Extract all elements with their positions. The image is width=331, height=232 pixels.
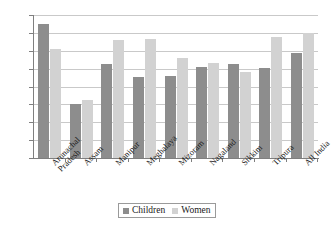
- bar-group: [34, 15, 66, 158]
- y-axis-tick-mark: [29, 69, 33, 70]
- bar-children: [259, 68, 270, 158]
- x-axis-category-labels: Arunachal PradeshAssamManipurMeghalayaMi…: [34, 161, 318, 207]
- legend-item: Children: [123, 206, 165, 216]
- bar-women: [145, 39, 156, 158]
- y-axis-tick-mark: [29, 51, 33, 52]
- legend-label: Women: [181, 206, 210, 216]
- y-axis-tick-mark: [29, 140, 33, 141]
- bar-group: [223, 15, 255, 158]
- bar-children: [101, 64, 112, 158]
- legend-item: Women: [172, 206, 210, 216]
- y-axis-tick-mark: [29, 104, 33, 105]
- y-axis-tick-mark: [29, 158, 33, 159]
- chart-legend: ChildrenWomen: [118, 203, 216, 218]
- y-axis-tick-mark: [29, 33, 33, 34]
- legend-label: Children: [132, 206, 165, 216]
- bar-women: [271, 37, 282, 158]
- bar-group: [97, 15, 129, 158]
- bar-children: [38, 24, 49, 158]
- bar-women: [303, 33, 314, 158]
- bar-group: [287, 15, 319, 158]
- bar-group: [255, 15, 287, 158]
- bar-women: [177, 58, 188, 158]
- bar-women: [113, 40, 124, 158]
- bar-group: [192, 15, 224, 158]
- y-axis-tick-mark: [29, 15, 33, 16]
- legend-swatch-icon: [123, 208, 129, 214]
- y-axis-tick-mark: [29, 122, 33, 123]
- bar-children: [291, 53, 302, 158]
- legend-swatch-icon: [172, 208, 178, 214]
- bar-women: [208, 63, 219, 158]
- bar-women: [50, 49, 61, 158]
- y-axis-tick-mark: [29, 87, 33, 88]
- bar-women: [240, 72, 251, 158]
- bar-group: [129, 15, 161, 158]
